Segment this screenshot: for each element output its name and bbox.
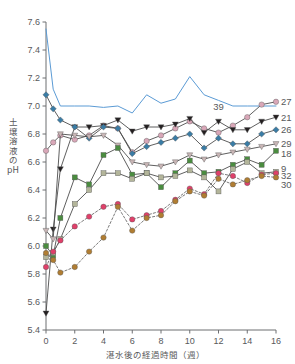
data-point-marker [115,171,120,176]
data-point-marker [259,173,264,178]
series-label-39: 39 [213,101,224,112]
data-point-marker [115,204,120,209]
data-point-marker [43,264,48,269]
data-point-marker [50,257,55,262]
data-point-marker [43,250,48,255]
data-point-marker [158,139,164,145]
data-point-marker [43,311,49,316]
y-tick-label: 7.6 [27,17,40,27]
data-point-marker [58,238,63,243]
data-point-marker [130,176,135,181]
data-point-marker [50,237,56,242]
data-point-marker [259,102,264,107]
series-label-21: 21 [281,112,292,123]
data-point-marker [144,215,149,220]
data-point-marker [144,144,150,150]
axis-titles: 湛水後の経過時間（週） [106,350,205,360]
data-point-marker [115,146,120,151]
data-point-marker [50,227,56,232]
y-axis-title: 土壌溶液のpH [6,118,20,175]
x-tick-label: 12 [213,336,223,346]
x-tick-label: 0 [43,336,48,346]
data-point-marker [72,224,77,229]
series-39 [46,29,276,113]
data-point-marker [101,171,106,176]
data-point-marker [273,99,278,104]
data-point-marker [101,204,106,209]
data-point-marker [144,171,149,176]
series-26 [43,92,279,157]
data-point-marker [245,160,250,165]
data-point-marker [215,135,221,141]
data-point-marker [158,164,164,169]
y-tick-label: 6.6 [27,157,40,167]
y-tick-label: 6.8 [27,129,40,139]
data-point-marker [86,214,91,219]
data-point-marker [202,175,207,180]
data-point-marker [87,188,92,193]
x-tick-label: 8 [158,336,163,346]
data-point-marker [158,213,163,218]
data-point-marker [245,178,250,183]
data-point-marker [259,162,264,167]
data-point-marker [230,173,235,178]
data-point-marker [72,175,77,180]
series-layer [43,29,279,316]
series-labels: 27212629189323039 [213,96,291,190]
data-point-marker [130,228,135,233]
data-point-marker [158,133,163,138]
series-line-39 [46,29,276,113]
data-point-marker [144,138,149,143]
x-tick-label: 14 [242,336,252,346]
data-point-marker [245,115,250,120]
data-point-marker [216,171,221,176]
series-label-30: 30 [281,179,292,190]
x-tick-label: 4 [101,336,106,346]
x-tick-label: 2 [72,336,77,346]
x-tick-label: 16 [271,336,281,346]
data-point-marker [129,129,135,134]
data-point-marker [50,249,55,254]
data-point-marker [57,117,63,123]
series-18 [44,146,279,259]
data-point-marker [173,174,178,179]
data-point-marker [201,193,206,198]
y-tick-label: 7.0 [27,101,40,111]
data-point-marker [216,119,222,124]
data-point-marker [130,217,135,222]
series-label-18: 18 [281,148,292,159]
data-point-marker [230,167,235,172]
data-point-marker [50,140,55,145]
data-point-marker [187,158,192,163]
y-tick-label: 5.4 [27,325,40,335]
data-point-marker [115,125,121,131]
data-point-marker [44,244,49,249]
data-point-marker [43,92,49,98]
data-point-marker [58,216,63,221]
series-label-26: 26 [281,124,292,135]
data-point-marker [50,106,56,112]
data-point-marker [273,127,279,133]
y-tick-label: 6.0 [27,241,40,251]
data-point-marker [201,130,207,135]
data-point-marker [86,249,91,254]
data-point-marker [216,130,221,135]
y-axis-ticks: 5.45.65.86.06.26.46.66.87.07.27.47.6 [27,17,46,335]
x-tick-label: 6 [130,336,135,346]
data-point-marker [274,148,279,153]
ph-line-chart: 5.45.65.86.06.26.46.66.87.07.27.47.6 024… [0,0,295,364]
data-point-marker [230,182,235,187]
data-point-marker [259,119,265,124]
data-point-marker [216,176,221,181]
data-point-marker [101,153,106,158]
y-tick-label: 6.2 [27,213,40,223]
data-point-marker [273,175,278,180]
data-point-marker [216,189,221,194]
data-point-marker [230,141,236,147]
data-point-marker [43,148,48,153]
data-point-marker [244,141,250,147]
data-point-marker [159,185,164,190]
chart-container: 5.45.65.86.06.26.46.66.87.07.27.47.6 024… [0,0,295,364]
y-tick-label: 7.2 [27,73,40,83]
data-point-marker [159,175,164,180]
